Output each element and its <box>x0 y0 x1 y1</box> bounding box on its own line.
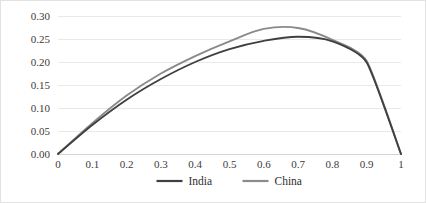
y-tick-label: 0.30 <box>31 10 51 22</box>
y-axis-tick-labels: 0.000.050.100.150.200.250.30 <box>31 10 51 160</box>
y-tick-label: 0.25 <box>31 33 51 45</box>
y-tick-label: 0.15 <box>31 79 51 91</box>
series-line-china <box>58 27 401 154</box>
gridlines <box>58 17 401 155</box>
y-tick-label: 0.05 <box>31 125 51 137</box>
y-tick-label: 0.20 <box>31 56 51 68</box>
x-tick-label: 0.1 <box>85 158 99 170</box>
x-tick-label: 0.9 <box>360 158 374 170</box>
x-tick-label: 0.4 <box>188 158 202 170</box>
x-tick-label: 0.3 <box>154 158 168 170</box>
x-axis-tick-labels: 00.10.20.30.40.50.60.70.80.91 <box>55 158 404 170</box>
y-tick-label: 0.10 <box>31 102 51 114</box>
y-tick-label: 0.00 <box>31 148 51 160</box>
legend-label-china: China <box>275 175 302 187</box>
x-tick-label: 0 <box>55 158 61 170</box>
x-tick-label: 0.5 <box>223 158 237 170</box>
series-line-india <box>58 37 401 154</box>
chart-legend: IndiaChina <box>157 175 302 187</box>
legend-label-india: India <box>189 175 213 187</box>
x-tick-label: 0.2 <box>120 158 134 170</box>
x-tick-label: 0.8 <box>326 158 340 170</box>
chart-container: 0.000.050.100.150.200.250.30 00.10.20.30… <box>0 0 426 203</box>
x-tick-label: 0.6 <box>257 158 271 170</box>
series-lines <box>58 27 401 154</box>
x-tick-label: 1 <box>398 158 404 170</box>
x-tick-label: 0.7 <box>291 158 305 170</box>
line-chart: 0.000.050.100.150.200.250.30 00.10.20.30… <box>1 1 426 203</box>
